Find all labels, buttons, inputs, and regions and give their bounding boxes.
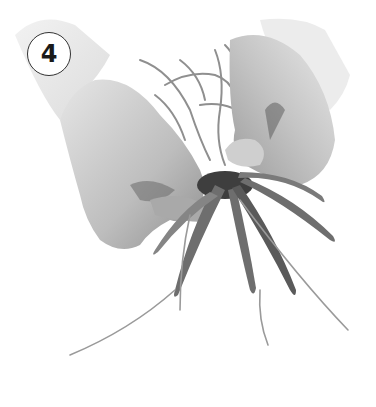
step-badge: 4 xyxy=(27,32,71,76)
step-number: 4 xyxy=(41,42,58,66)
